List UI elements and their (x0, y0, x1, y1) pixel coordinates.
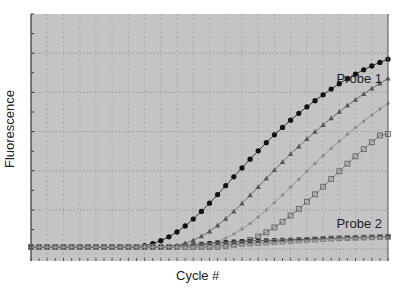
probe2-label: Probe 2 (336, 216, 382, 231)
y-axis-label: Fluorescence (2, 90, 17, 168)
x-axis-label: Cycle # (176, 268, 219, 283)
amplification-chart: Probe 1 Probe 2 (0, 0, 400, 303)
probe1-label: Probe 1 (336, 71, 382, 86)
